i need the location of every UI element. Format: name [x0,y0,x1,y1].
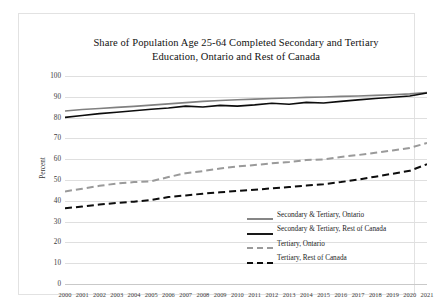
y-tick-label: 30 [37,218,61,226]
legend-label: Tertiary, Rest of Canada [277,254,347,263]
chart-title-line-1: Share of Population Age 25-64 Completed … [47,36,425,50]
legend-label: Secondary & Tertiary, Ontario [277,211,364,220]
y-tick-label: 10 [37,259,61,267]
y-tick-label: 50 [37,176,61,184]
x-tick-label: 2021 [414,290,438,299]
series-line [65,164,427,208]
legend-swatch-icon [247,239,273,249]
series-line [65,93,427,111]
series-line [65,93,427,117]
chart-frame: Share of Population Age 25-64 Completed … [18,13,415,295]
y-tick-label: 60 [37,155,61,163]
y-tick-label: 90 [37,93,61,101]
y-tick-label: 40 [37,197,61,205]
chart-title: Share of Population Age 25-64 Completed … [47,36,425,64]
chart-title-line-2: Education, Ontario and Rest of Canada [47,50,425,64]
y-tick-label: 0 [37,280,61,288]
x-axis-tick-labels: 2000200120022003200420052006200720082009… [65,290,427,302]
y-tick-label: 70 [37,134,61,142]
series-line [65,143,427,191]
gridline-0 [65,284,427,285]
y-tick-label: 80 [37,114,61,122]
y-axis-tick-labels: 1009080706050403020100 [37,76,61,284]
legend-item[interactable]: Tertiary, Ontario [247,237,419,252]
chart-legend: Secondary & Tertiary, OntarioSecondary &… [247,208,419,266]
y-tick-label: 100 [37,72,61,80]
legend-swatch-icon [247,254,273,264]
legend-label: Tertiary, Ontario [277,240,325,249]
legend-swatch-icon [247,225,273,235]
legend-label: Secondary & Tertiary, Rest of Canada [277,225,386,234]
y-tick-label: 20 [37,238,61,246]
legend-item[interactable]: Secondary & Tertiary, Ontario [247,208,419,223]
legend-item[interactable]: Secondary & Tertiary, Rest of Canada [247,223,419,238]
legend-item[interactable]: Tertiary, Rest of Canada [247,252,419,267]
legend-swatch-icon [247,210,273,220]
